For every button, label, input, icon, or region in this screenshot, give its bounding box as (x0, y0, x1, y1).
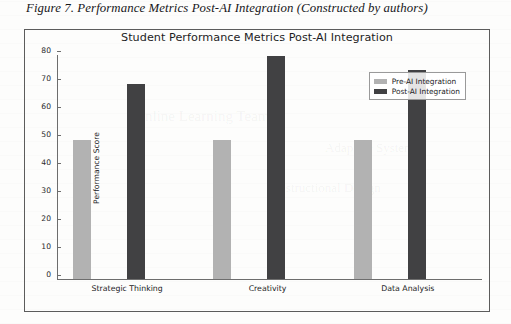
y-axis-tick-label: 10 (41, 242, 57, 252)
y-axis-tick-label: 60 (41, 102, 57, 112)
y-axis-tick: 70 (27, 74, 57, 84)
y-axis-tick-label: 20 (41, 214, 57, 224)
x-axis-tick-label: Strategic Thinking (57, 284, 197, 293)
legend-swatch-icon (374, 89, 387, 94)
y-axis-tick: 0 (27, 270, 57, 280)
y-axis-tick-label: 40 (41, 158, 57, 168)
figure-caption: Figure 7. Performance Metrics Post-AI In… (26, 1, 496, 16)
bar-pre-ai[interactable] (213, 140, 231, 279)
y-axis-tick: 30 (27, 186, 57, 196)
bar-group: Creativity (197, 56, 337, 279)
bar-post-ai[interactable] (408, 70, 426, 279)
x-axis-tick-label: Data Analysis (338, 284, 478, 293)
chart-title: Student Performance Metrics Post-AI Inte… (25, 31, 489, 44)
legend-label: Pre-AI Integration (392, 77, 457, 86)
y-axis-tick-label: 80 (41, 46, 57, 56)
y-axis-tick-label: 0 (46, 270, 57, 280)
bar-pre-ai[interactable] (73, 140, 91, 279)
bar-post-ai[interactable] (267, 56, 285, 279)
x-axis-tick-label: Creativity (197, 284, 337, 293)
chart-legend: Pre-AI IntegrationPost-AI Integration (369, 72, 466, 100)
bar-pre-ai[interactable] (354, 140, 372, 279)
y-axis-tick: 40 (27, 158, 57, 168)
legend-swatch-icon (374, 79, 387, 84)
legend-label: Post-AI Integration (392, 87, 460, 96)
chart-frame: nline Learning Team Instructional Design… (24, 29, 490, 312)
plot-area: Performance Score 01020304050607080 Stra… (57, 56, 478, 280)
y-axis-tick: 80 (27, 46, 57, 56)
y-axis-tick-label: 30 (41, 186, 57, 196)
y-axis-tick-mark (57, 51, 61, 52)
y-axis-tick: 50 (27, 130, 57, 140)
y-axis-tick: 20 (27, 214, 57, 224)
y-axis-tick-label: 70 (41, 74, 57, 84)
y-axis-tick: 10 (27, 242, 57, 252)
y-axis-tick: 60 (27, 102, 57, 112)
bar-post-ai[interactable] (127, 84, 145, 279)
y-axis-tick-label: 50 (41, 130, 57, 140)
bar-group: Strategic Thinking (57, 56, 197, 279)
legend-item[interactable]: Pre-AI Integration (374, 76, 460, 86)
legend-item[interactable]: Post-AI Integration (374, 86, 460, 96)
